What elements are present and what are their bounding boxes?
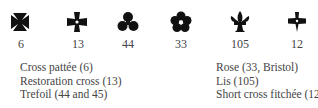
restoration-cross-icon xyxy=(66,11,88,33)
legend-item: Trefoil (44 and 45) xyxy=(20,88,122,102)
symbol-number: 13 xyxy=(63,37,93,52)
legend-right: Rose (33, Bristol) Lis (105) Short cross… xyxy=(216,61,318,102)
legend-item: Lis (105) xyxy=(216,75,318,89)
legend-item: Restoration cross (13) xyxy=(20,75,122,89)
legend-item: Rose (33, Bristol) xyxy=(216,61,318,75)
symbol-number: 33 xyxy=(166,37,196,52)
symbol-number: 12 xyxy=(282,37,312,52)
short-cross-fitchee-icon xyxy=(286,11,308,33)
lis-icon xyxy=(229,11,251,33)
cross-pattee-icon xyxy=(9,11,31,33)
legend-item: Short cross fitchée (12) xyxy=(216,88,318,102)
legend-item: Cross pattée (6) xyxy=(20,61,122,75)
legend-left: Cross pattée (6) Restoration cross (13) … xyxy=(20,61,122,102)
symbol-number: 44 xyxy=(113,37,143,52)
symbol-number: 6 xyxy=(6,37,36,52)
trefoil-icon xyxy=(117,11,139,33)
symbol-number: 105 xyxy=(225,37,255,52)
rose-icon xyxy=(170,11,192,33)
